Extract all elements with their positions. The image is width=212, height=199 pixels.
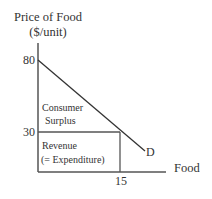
y-axis-label-line2: ($/unit) bbox=[29, 25, 67, 39]
consumer-surplus-label-line2: Surplus bbox=[45, 115, 76, 126]
revenue-label-line1: Revenue bbox=[42, 140, 78, 151]
y-tick-30: 30 bbox=[23, 125, 35, 139]
y-axis-label-line1: Price of Food bbox=[14, 10, 83, 24]
demand-label: D bbox=[146, 145, 155, 159]
consumer-surplus-label-line1: Consumer bbox=[42, 102, 84, 113]
revenue-label-line2: (= Expenditure) bbox=[41, 154, 105, 166]
demand-chart: Price of Food ($/unit) 80 30 D 15 Food C… bbox=[0, 0, 212, 199]
x-tick-15: 15 bbox=[115, 174, 127, 188]
y-tick-80: 80 bbox=[23, 53, 35, 67]
x-axis-label: Food bbox=[174, 161, 200, 175]
